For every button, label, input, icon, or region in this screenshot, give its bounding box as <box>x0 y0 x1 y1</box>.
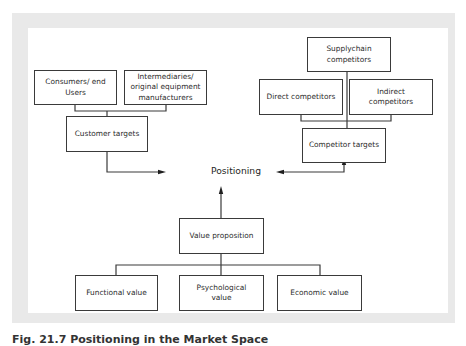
indirect-competitors-label: Indirect competitors <box>369 87 413 108</box>
customer-targets-box: Customer targets <box>66 116 148 152</box>
customer-targets-label: Customer targets <box>75 129 140 140</box>
economic-value-box: Economic value <box>277 275 362 311</box>
competitor-targets-box: Competitor targets <box>302 128 386 163</box>
value-proposition-box: Value proposition <box>179 218 264 254</box>
figure-caption: Fig. 21.7 Positioning in the Market Spac… <box>12 333 268 346</box>
value-proposition-label: Value proposition <box>189 231 253 242</box>
positioning-label: Positioning <box>196 165 276 176</box>
psychological-value-label: Psychological value <box>197 283 247 304</box>
direct-competitors-label: Direct competitors <box>267 92 336 103</box>
indirect-competitors-box: Indirect competitors <box>349 79 433 115</box>
functional-value-box: Functional value <box>75 275 158 311</box>
economic-value-label: Economic value <box>290 288 348 299</box>
consumers-end-users-box: Consumers/ end Users <box>34 70 117 105</box>
functional-value-label: Functional value <box>86 288 147 299</box>
direct-competitors-box: Direct competitors <box>259 79 343 115</box>
intermediaries-label: Intermediaries/ original equipment manuf… <box>131 72 201 104</box>
psychological-value-box: Psychological value <box>179 275 264 311</box>
intermediaries-box: Intermediaries/ original equipment manuf… <box>124 70 207 105</box>
competitor-targets-label: Competitor targets <box>309 140 379 151</box>
supplychain-competitors-box: Supplychain competitors <box>307 37 391 72</box>
supplychain-label: Supplychain competitors <box>326 44 371 65</box>
consumers-label: Consumers/ end Users <box>45 77 105 98</box>
